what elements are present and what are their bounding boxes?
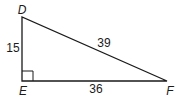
side-label-df: 39: [97, 36, 111, 50]
triangle-def: [22, 17, 167, 81]
vertex-label-e: E: [19, 84, 28, 98]
side-label-ef: 36: [89, 82, 103, 96]
right-angle-marker: [22, 71, 33, 81]
vertex-label-d: D: [18, 3, 27, 17]
side-label-de: 15: [6, 41, 20, 55]
triangle-diagram: D E F 15 39 36: [0, 0, 184, 100]
vertex-label-f: F: [166, 84, 174, 98]
